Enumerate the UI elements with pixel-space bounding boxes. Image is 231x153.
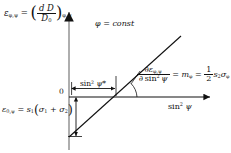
- slope-equals-2: =: [195, 70, 202, 79]
- m-symbol: m: [181, 70, 189, 79]
- y-axis-equals: =: [21, 8, 28, 18]
- intercept-plus: +: [50, 105, 57, 114]
- D0-subscript: 0: [48, 17, 51, 23]
- condition-label: φ = const: [95, 20, 134, 28]
- y-axis-eps-subscript: φ,ψ: [9, 12, 19, 18]
- x-axis-sin-text: sin: [168, 102, 180, 111]
- psi-star-symbol: ψ*: [96, 79, 106, 88]
- fraction-denominator: D0: [37, 14, 56, 23]
- intercept-label: ε0,ψ = s1(σ1 + σ2): [2, 106, 73, 114]
- slope-fraction: ∂εφ,ψ ∂ sin2 ψ: [137, 66, 170, 84]
- sin-text: sin: [80, 79, 91, 88]
- one-half-fraction: 1 2: [204, 66, 213, 84]
- paren-subscript: φ,ψ: [62, 12, 72, 18]
- intercept-close-paren: ): [68, 106, 73, 114]
- half-denominator: 2: [204, 75, 213, 83]
- slope-denominator: ∂ sin2 ψ: [137, 75, 170, 83]
- sin-squared-psi-star-label: sin2 ψ*: [80, 80, 106, 88]
- sigma-phi-subscript: φ: [226, 73, 229, 79]
- x-axis-sin-exponent: 2: [180, 101, 183, 107]
- sin-exponent: 2: [91, 80, 94, 85]
- slope-equals-1: =: [172, 70, 179, 79]
- sigma1-subscript: 1: [44, 108, 47, 114]
- x-axis-label: sin2 ψ: [168, 103, 192, 111]
- x-axis-psi-symbol: ψ: [186, 102, 192, 111]
- angle-arc: [131, 84, 137, 98]
- slope-den-exponent: 2: [157, 74, 160, 80]
- intercept-eps-subscript: 0,ψ: [6, 108, 15, 114]
- m-subscript: φ: [189, 73, 192, 79]
- y-axis-label: εφ,ψ = (d DD0)φ,ψ: [4, 4, 72, 23]
- dD-over-D0-fraction: d DD0: [37, 4, 56, 23]
- origin-label: 0: [59, 88, 64, 96]
- figure-sin2psi-plot: εφ,ψ = (d DD0)φ,ψ φ = const 0 sin2 ψ* ε0…: [0, 0, 231, 153]
- intercept-equals: =: [17, 105, 24, 114]
- slope-label: ∂εφ,ψ ∂ sin2 ψ = mφ = 1 2 s2σφ: [137, 66, 230, 84]
